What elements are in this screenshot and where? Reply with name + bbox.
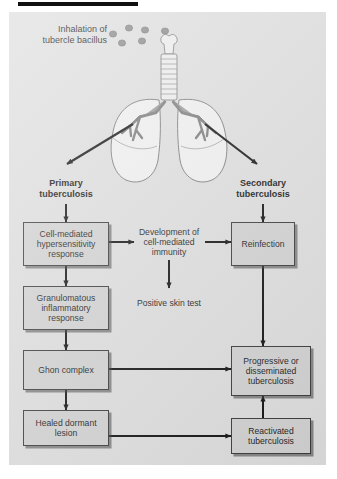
diagram-stage: Inhalation of tubercle bacillus Primary …: [9, 12, 326, 465]
node-label: Ghon complex: [38, 365, 93, 375]
caption-line-2: tubercle bacillus: [42, 35, 107, 45]
node-reinfection[interactable]: Reinfection: [231, 222, 295, 266]
node-healed-dormant-lesion[interactable]: Healed dormant lesion: [23, 410, 109, 446]
node-label: Positive skin test: [137, 298, 201, 308]
inhalation-caption: Inhalation of tubercle bacillus: [21, 24, 107, 46]
node-label: Reactivated tuberculosis: [232, 426, 310, 446]
stage-label-secondary: Secondary tuberculosis: [218, 178, 308, 199]
stage-label-primary: Primary tuberculosis: [21, 178, 111, 199]
figure-panel: Inhalation of tubercle bacillus Primary …: [9, 12, 326, 465]
node-reactivated-tuberculosis[interactable]: Reactivated tuberculosis: [231, 418, 311, 454]
node-label: Healed dormant lesion: [24, 418, 108, 438]
node-label: Reinfection: [242, 239, 285, 249]
node-label: Granulomatous inflammatory response: [24, 293, 108, 324]
secondary-line-2: tuberculosis: [236, 189, 290, 199]
node-development-cell-mediated-immunity: Development of cell-mediated immunity: [131, 224, 207, 260]
node-label: Cell-mediated hypersensitivity response: [24, 229, 108, 260]
node-ghon-complex[interactable]: Ghon complex: [23, 350, 109, 390]
node-label: Development of cell-mediated immunity: [131, 227, 207, 258]
node-granulomatous-inflammatory[interactable]: Granulomatous inflammatory response: [23, 286, 109, 330]
node-label: Progressive or disseminated tuberculosis: [232, 356, 310, 387]
node-cell-mediated-hypersensitivity[interactable]: Cell-mediated hypersensitivity response: [23, 222, 109, 266]
caption-line-1: Inhalation of: [58, 24, 107, 34]
secondary-line-1: Secondary: [240, 178, 286, 188]
primary-line-1: Primary: [49, 178, 83, 188]
primary-line-2: tuberculosis: [39, 189, 93, 199]
tubercle-bacilli-icon: [109, 25, 168, 46]
node-progressive-or-disseminated[interactable]: Progressive or disseminated tuberculosis: [231, 346, 311, 396]
trachea-icon: [161, 34, 177, 100]
node-positive-skin-test: Positive skin test: [135, 290, 203, 316]
top-rule: [18, 2, 138, 6]
